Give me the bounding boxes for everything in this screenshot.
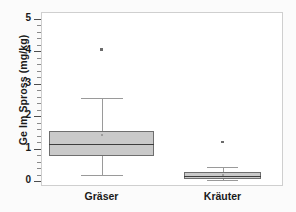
outlier-point	[221, 141, 223, 143]
y-minor-tick	[37, 64, 41, 65]
y-minor-tick	[37, 38, 41, 39]
y-minor-tick	[37, 162, 41, 163]
x-tick-label-kräuter: Kräuter	[168, 190, 278, 202]
y-minor-tick	[37, 25, 41, 26]
y-minor-tick	[37, 97, 41, 98]
boxplot-chart: Ge Im Spross (mg/kg) 012345 GräserKräute…	[0, 0, 296, 212]
y-minor-tick	[37, 155, 41, 156]
y-tick-label-4: 4	[7, 44, 31, 55]
mean-marker	[101, 134, 103, 136]
whisker-upper-line	[102, 98, 103, 131]
median-line	[184, 176, 261, 177]
y-minor-tick	[37, 45, 41, 46]
y-minor-tick	[37, 168, 41, 169]
y-minor-tick	[37, 175, 41, 176]
y-tick-2	[34, 116, 41, 117]
y-minor-tick	[37, 103, 41, 104]
y-tick-label-3: 3	[7, 77, 31, 88]
whisker-cap-lower	[207, 180, 238, 181]
y-minor-tick	[37, 71, 41, 72]
y-tick-5	[34, 19, 41, 20]
y-minor-tick	[37, 129, 41, 130]
y-tick-label-1: 1	[7, 142, 31, 153]
y-tick-4	[34, 51, 41, 52]
y-minor-tick	[37, 110, 41, 111]
mean-marker	[222, 174, 224, 176]
median-line	[49, 144, 154, 145]
y-minor-tick	[37, 90, 41, 91]
y-minor-tick	[37, 123, 41, 124]
y-tick-3	[34, 84, 41, 85]
plot-area	[41, 12, 283, 186]
whisker-cap-lower	[81, 175, 123, 176]
whisker-cap-upper	[207, 167, 238, 168]
y-tick-1	[34, 149, 41, 150]
whisker-cap-upper	[81, 98, 123, 99]
y-minor-tick	[37, 58, 41, 59]
outlier-point	[100, 48, 102, 50]
y-minor-tick	[37, 142, 41, 143]
x-tick-label-gräser: Gräser	[47, 190, 157, 202]
y-minor-tick	[37, 32, 41, 33]
y-tick-0	[34, 181, 41, 182]
y-minor-tick	[37, 136, 41, 137]
y-minor-tick	[37, 77, 41, 78]
y-tick-label-5: 5	[7, 12, 31, 23]
whisker-lower-line	[102, 156, 103, 175]
y-tick-label-2: 2	[7, 109, 31, 120]
y-tick-label-0: 0	[7, 174, 31, 185]
